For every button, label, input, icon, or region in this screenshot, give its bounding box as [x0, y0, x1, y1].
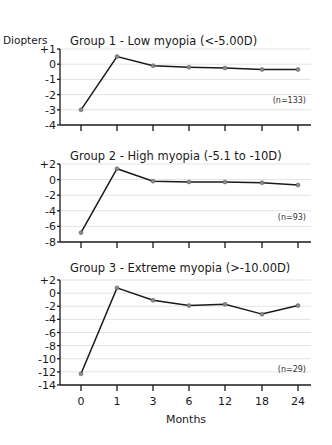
y-tick-label: +1: [40, 43, 56, 56]
data-point: [151, 179, 155, 183]
data-point: [151, 298, 155, 302]
panel-group-3: +20-2-4-6-8-10-12-14Group 3 - Extreme my…: [38, 261, 311, 392]
y-tick-label: -6: [45, 327, 56, 340]
y-tick-label: -6: [45, 220, 56, 233]
x-tick-label: 12: [218, 395, 232, 408]
data-point: [223, 66, 227, 70]
data-point: [187, 180, 191, 184]
y-tick-label: -4: [45, 205, 56, 218]
y-tick-label: -2: [45, 89, 56, 102]
panel-title: Group 3 - Extreme myopia (>-10.00D): [70, 261, 290, 275]
y-tick-label: +2: [40, 274, 56, 287]
series-line: [81, 288, 298, 374]
data-point: [296, 68, 300, 72]
y-tick-label: 0: [49, 174, 56, 187]
data-point: [223, 180, 227, 184]
data-point: [296, 304, 300, 308]
y-tick-label: +2: [40, 158, 56, 171]
data-point: [115, 167, 119, 171]
panel-title: Group 2 - High myopia (-5.1 to -10D): [70, 149, 282, 163]
data-point: [79, 231, 83, 235]
x-tick-label: 18: [255, 395, 269, 408]
data-point: [296, 183, 300, 187]
y-tick-label: -8: [45, 340, 56, 353]
data-point: [260, 68, 264, 72]
data-point: [187, 65, 191, 69]
x-tick-label: 3: [150, 395, 157, 408]
data-point: [223, 302, 227, 306]
x-tick-label: 6: [186, 395, 193, 408]
panel-group-2: +20-2-4-6-8Group 2 - High myopia (-5.1 t…: [40, 149, 311, 249]
y-tick-label: -8: [45, 236, 56, 249]
x-tick-label: 24: [291, 395, 305, 408]
x-axis-ticks: 0136121824: [78, 395, 306, 408]
x-axis-label: Months: [166, 413, 206, 426]
y-tick-label: -1: [45, 73, 56, 86]
y-tick-label: 0: [49, 58, 56, 71]
panel-group-1: +10-1-2-3-4Group 1 - Low myopia (<-5.00D…: [40, 34, 311, 132]
y-tick-label: -10: [38, 353, 56, 366]
sample-size-label: (n=133): [273, 96, 306, 105]
y-tick-label: -3: [45, 104, 56, 117]
data-point: [79, 108, 83, 112]
data-point: [187, 304, 191, 308]
sample-size-label: (n=93): [278, 213, 306, 222]
y-tick-label: -2: [45, 300, 56, 313]
myopia-chart: Diopters +10-1-2-3-4Group 1 - Low myopia…: [0, 0, 332, 445]
data-point: [115, 286, 119, 290]
y-tick-label: 0: [49, 287, 56, 300]
sample-size-label: (n=29): [278, 365, 306, 374]
data-point: [79, 372, 83, 376]
data-point: [151, 64, 155, 68]
panel-title: Group 1 - Low myopia (<-5.00D): [70, 34, 257, 48]
y-tick-label: -4: [45, 119, 56, 132]
y-tick-label: -4: [45, 313, 56, 326]
data-point: [260, 312, 264, 316]
y-tick-label: -2: [45, 189, 56, 202]
series-line: [81, 169, 298, 233]
data-point: [115, 55, 119, 59]
data-point: [260, 181, 264, 185]
x-tick-label: 1: [114, 395, 121, 408]
y-tick-label: -12: [38, 366, 56, 379]
x-tick-label: 0: [78, 395, 85, 408]
y-tick-label: -14: [38, 379, 56, 392]
